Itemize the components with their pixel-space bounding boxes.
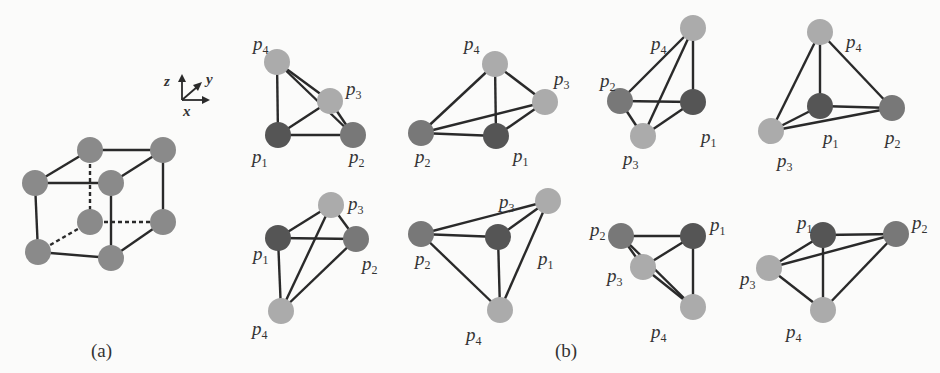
label-p3: p3 [346, 193, 364, 217]
node-p1 [483, 123, 509, 149]
label-p4: p4 [462, 33, 480, 57]
cube-node-bfr [98, 245, 124, 271]
axis-x-label: x [182, 103, 191, 119]
tetrahedron-bottom-3: p1p2p3p4 [588, 214, 726, 345]
node-p2 [879, 95, 905, 121]
label-p3: p3 [621, 148, 639, 172]
label-p2: p2 [413, 146, 431, 170]
cube-edges [35, 150, 163, 258]
tetrahedron-top-2: p1p2p3p4 [408, 33, 570, 170]
label-p4: p4 [250, 318, 268, 342]
node-p2 [343, 226, 369, 252]
label-p1: p1 [250, 146, 268, 170]
node-p4 [680, 15, 706, 41]
cube-node-mbl [77, 209, 103, 235]
node-p1 [807, 93, 833, 119]
node-p1 [810, 222, 836, 248]
node-p4 [810, 297, 836, 323]
node-p3 [318, 192, 344, 218]
node-p2 [408, 221, 434, 247]
label-p3: p3 [344, 78, 362, 102]
node-p4 [482, 51, 508, 77]
node-p3 [758, 118, 784, 144]
label-p3: p3 [775, 150, 793, 174]
edge-p2-p4 [281, 239, 356, 311]
label-p3: p3 [738, 268, 756, 292]
cube-node-tbr [150, 137, 176, 163]
node-p2 [408, 120, 434, 146]
label-p1: p1 [251, 243, 269, 267]
label-p2: p2 [347, 146, 365, 170]
node-p3 [630, 254, 656, 280]
label-p4: p4 [844, 31, 862, 55]
tetrahedron-bottom-2: p1p2p3p4 [408, 188, 561, 348]
label-p1: p1 [795, 212, 813, 236]
cube-node-tbl [77, 137, 103, 163]
node-p1 [485, 224, 511, 250]
tetrahedron-bottom-4: p1p2p3p4 [738, 212, 928, 345]
node-p2 [883, 221, 909, 247]
caption-b: (b) [555, 340, 577, 362]
label-p4: p4 [649, 33, 667, 57]
edge-p2-p3 [421, 201, 548, 234]
figure: z y x (a) p1p2p3p4p1p2p3p4p1p2p3p4p1p2p3… [0, 0, 940, 373]
axis-y-label: y [204, 71, 213, 87]
axis-z-label: z [163, 73, 170, 89]
tetrahedron-bottom-1: p1p2p3p4 [250, 192, 378, 342]
node-p1 [265, 225, 291, 251]
node-p1 [680, 223, 706, 249]
caption-a: (a) [91, 340, 112, 362]
axes-icon: z y x [163, 71, 213, 119]
edge-p2-p3 [421, 102, 545, 133]
label-p1: p1 [511, 145, 529, 169]
cube-node-tfr [98, 170, 124, 196]
cube-node-tfl [22, 170, 48, 196]
node-p2 [608, 223, 634, 249]
edge-p2-p4 [823, 234, 896, 310]
node-p3 [756, 255, 782, 281]
label-p3: p3 [497, 191, 515, 215]
tetrahedron-top-1: p1p2p3p4 [250, 33, 366, 170]
label-p2: p2 [413, 248, 431, 272]
label-p2: p2 [910, 212, 928, 236]
cube-nodes [22, 137, 176, 271]
label-p4: p4 [464, 324, 482, 348]
label-p1: p1 [699, 126, 717, 150]
label-p1: p1 [708, 214, 726, 238]
node-p1 [680, 89, 706, 115]
label-p4: p4 [251, 33, 269, 57]
node-p3 [317, 88, 343, 114]
label-p1: p1 [821, 127, 839, 151]
label-p2: p2 [883, 127, 901, 151]
node-p3 [532, 89, 558, 115]
tetrahedron-top-3: p1p2p3p4 [598, 15, 717, 172]
label-p3: p3 [552, 68, 570, 92]
node-p4 [487, 297, 513, 323]
node-p4 [680, 294, 706, 320]
label-p3: p3 [605, 265, 623, 289]
panel-a-cube: z y x (a) [22, 71, 213, 362]
node-p2 [340, 122, 366, 148]
label-p2: p2 [598, 70, 616, 94]
cube-node-bfl [25, 239, 51, 265]
node-p3 [630, 123, 656, 149]
node-p4 [268, 298, 294, 324]
node-p3 [535, 188, 561, 214]
label-p2: p2 [360, 253, 378, 277]
node-p1 [265, 122, 291, 148]
cube-node-mbr [150, 209, 176, 235]
panel-b-tetrahedra: p1p2p3p4p1p2p3p4p1p2p3p4p1p2p3p4p1p2p3p4… [250, 15, 928, 348]
label-p4: p4 [784, 321, 802, 345]
node-p4 [807, 19, 833, 45]
label-p2: p2 [588, 219, 606, 243]
tetrahedron-top-4: p1p2p3p4 [758, 19, 905, 174]
label-p1: p1 [536, 248, 554, 272]
label-p4: p4 [649, 321, 667, 345]
